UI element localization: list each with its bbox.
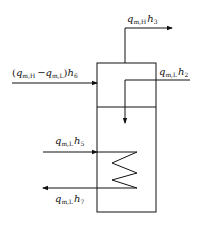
right-inlet-arrow [125,80,190,123]
coil-zigzag [97,152,137,188]
diagram-canvas: qm,Hh3 (qm,H−qm,L)h6 qm,Lh2 qm,Lh5 qm,Lh… [0,0,204,226]
top-outlet-arrow [125,28,172,63]
label-top-outlet: qm,Hh3 [127,13,158,25]
label-coil-inlet: qm,Lh5 [55,135,84,147]
label-coil-outlet: qm,Lh7 [55,193,84,205]
vessel-box [97,63,156,212]
label-right-inlet: qm,Lh2 [159,66,188,78]
label-left-inlet: (qm,H−qm,L)h6 [12,67,78,79]
